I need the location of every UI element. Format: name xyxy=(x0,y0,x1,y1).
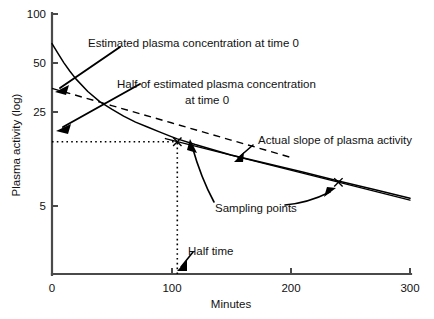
annotation-half-time: Half time xyxy=(188,245,233,257)
x-axis-title: Minutes xyxy=(211,298,252,310)
x-tick-label-300: 300 xyxy=(400,282,419,294)
y-tick-label-25: 25 xyxy=(33,106,46,118)
x-tick-label-200: 200 xyxy=(281,282,300,294)
plasma-activity-chart: 100 50 25 5 Plasma activity (log) 0 100 … xyxy=(0,0,434,319)
chart-canvas: 100 50 25 5 Plasma activity (log) 0 100 … xyxy=(0,0,434,319)
annotation-estimated-plasma-concentration: Estimated plasma concentration at time 0 xyxy=(88,37,299,49)
y-tick-label-100: 100 xyxy=(27,8,46,20)
x-tick-label-0: 0 xyxy=(49,282,55,294)
annotation-actual-slope: Actual slope of plasma activity xyxy=(258,134,412,146)
annotation-sampling-points: Sampling points xyxy=(215,202,297,214)
annotation-half-of-estimated-line1: Half of estimated plasma concentration xyxy=(117,78,316,90)
y-axis-title: Plasma activity (log) xyxy=(10,93,22,196)
annotation-half-of-estimated-line2: at time 0 xyxy=(185,94,229,106)
y-tick-label-50: 50 xyxy=(33,57,46,69)
y-tick-label-5: 5 xyxy=(40,200,46,212)
x-tick-label-100: 100 xyxy=(162,282,181,294)
